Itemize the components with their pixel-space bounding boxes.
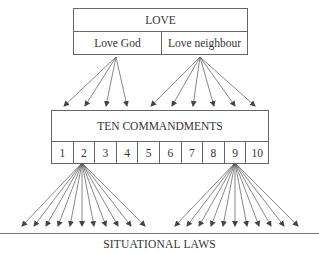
commandment-2-arrows xyxy=(22,163,145,226)
situational-laws-label: SITUATIONAL LAWS xyxy=(0,238,319,250)
commandment-9-arrows xyxy=(175,163,298,226)
arrow-fans xyxy=(0,0,319,253)
love-neighbour-arrows xyxy=(151,57,255,106)
love-god-arrows xyxy=(64,57,127,106)
divider-line xyxy=(0,233,319,234)
